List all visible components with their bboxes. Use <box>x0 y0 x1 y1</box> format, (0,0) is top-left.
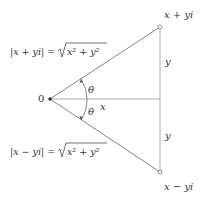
equation-lower: |x − yi| = x² + y² <box>10 143 107 158</box>
origin-label: 0 <box>38 93 44 104</box>
equation-upper-lhs: |x + yi| = <box>10 46 55 58</box>
y-label-upper: y <box>164 56 171 67</box>
x-label: x <box>100 101 106 112</box>
point-lower <box>158 170 162 174</box>
equation-lower-lhs: |x − yi| = <box>10 146 55 158</box>
equation-upper-radicand: x² + y² <box>67 46 100 57</box>
conjugate-diagram: 0 x + yi x − yi x y y θ θ |x + yi| = x² … <box>0 0 205 204</box>
theta-label-upper: θ <box>88 84 94 95</box>
modulus-line-upper <box>50 27 160 99</box>
origin-point <box>48 97 52 101</box>
theta-label-lower: θ <box>88 106 94 117</box>
y-label-lower: y <box>164 130 171 141</box>
equation-lower-radicand: x² + y² <box>67 146 100 157</box>
point-upper <box>158 25 162 29</box>
lower-point-label: x − yi <box>164 181 193 192</box>
upper-point-label: x + yi <box>164 9 193 20</box>
equation-upper: |x + yi| = x² + y² <box>10 43 107 58</box>
